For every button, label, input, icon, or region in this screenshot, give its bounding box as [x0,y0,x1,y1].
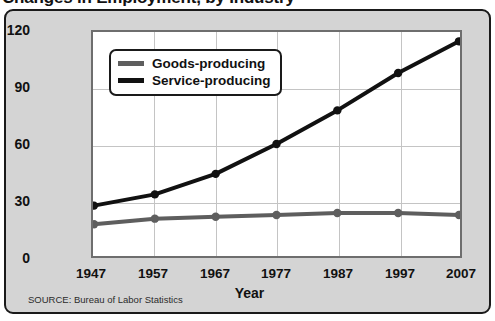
y-tick-60: 60 [0,136,30,152]
x-tick-1947: 1947 [61,266,121,281]
y-tick-90: 90 [0,79,30,95]
y-tick-0: 0 [0,250,30,266]
data-point [272,140,280,148]
data-point [394,209,402,217]
data-point [151,190,159,198]
legend-swatch-goods-producing [118,61,144,66]
figure-panel: Average number of employees (in millions… [4,9,491,314]
legend-item-goods-producing: Goods-producing [118,55,271,72]
y-tick-120: 120 [0,22,30,38]
page-title: Changes in Employment, by Industry [0,0,495,8]
data-point [93,201,98,209]
data-point [151,214,159,222]
data-point [333,106,341,114]
data-point [333,209,341,217]
source-note: SOURCE: Bureau of Labor Statistics [28,294,183,305]
x-tick-1987: 1987 [308,266,368,281]
series-goods-producing [93,209,460,229]
data-point [455,211,460,219]
chart-legend: Goods-producing Service-producing [109,49,282,96]
legend-swatch-service-producing [118,78,144,83]
data-point [394,69,402,77]
data-point [211,170,219,178]
data-point [211,213,219,221]
legend-label-service-producing: Service-producing [152,73,271,88]
y-tick-30: 30 [0,193,30,209]
data-point [93,220,98,228]
x-tick-1967: 1967 [185,266,245,281]
data-point [272,211,280,219]
x-tick-1997: 1997 [370,266,430,281]
x-tick-1977: 1977 [246,266,306,281]
legend-item-service-producing: Service-producing [118,72,271,89]
legend-label-goods-producing: Goods-producing [152,56,265,71]
x-tick-2007: 2007 [431,266,491,281]
x-tick-1957: 1957 [123,266,183,281]
